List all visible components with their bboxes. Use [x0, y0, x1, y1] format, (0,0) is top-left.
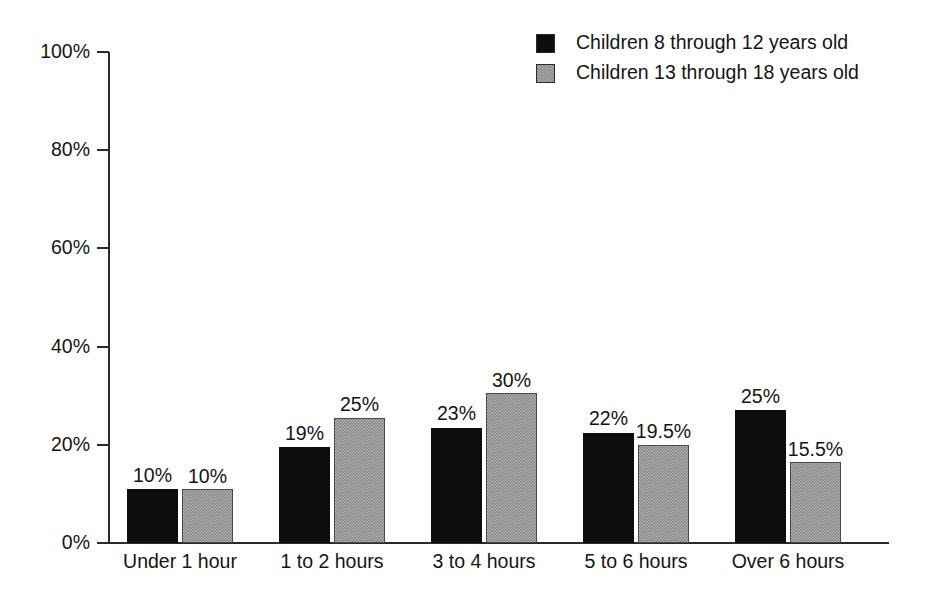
bar-value-label: 22% [589, 409, 628, 429]
x-axis-category-label: 5 to 6 hours [571, 552, 701, 572]
bar-value-label: 19% [285, 424, 324, 444]
bar-group: 25%15.5% [735, 52, 841, 543]
bar-series-a: 10% [127, 489, 178, 543]
bar-series-a: 23% [431, 428, 482, 543]
bar-value-label: 15.5% [788, 440, 843, 460]
x-axis-category-label: 3 to 4 hours [419, 552, 549, 572]
y-axis-tick-label: 80% [0, 140, 90, 160]
x-axis-category-label: Over 6 hours [723, 552, 853, 572]
bar-series-b: 10% [182, 489, 233, 543]
bar-value-label: 25% [340, 395, 379, 415]
bar-series-a: 25% [735, 410, 786, 543]
bar-group: 10%10% [127, 52, 233, 543]
bar-value-label: 10% [188, 467, 227, 487]
bar-group: 19%25% [279, 52, 385, 543]
bar-value-label: 23% [437, 404, 476, 424]
x-axis-category-label: 1 to 2 hours [267, 552, 397, 572]
bar-value-label: 19.5% [636, 422, 691, 442]
x-axis-category-label: Under 1 hour [115, 552, 245, 572]
plot-area: 10%10%19%25%23%30%22%19.5%25%15.5% [108, 52, 889, 543]
bar-group: 22%19.5% [583, 52, 689, 543]
y-axis-tick-label: 20% [0, 435, 90, 455]
bar-series-a: 22% [583, 433, 634, 543]
y-axis-tick-label: 0% [0, 533, 90, 553]
bar-series-a: 19% [279, 447, 330, 543]
bar-group: 23%30% [431, 52, 537, 543]
bar-series-b: 19.5% [638, 445, 689, 543]
bar-value-label: 10% [133, 466, 172, 486]
bar-value-label: 25% [741, 387, 780, 407]
y-axis-tick-label: 100% [0, 42, 90, 62]
grouped-bar-chart: Children 8 through 12 years old Children… [0, 0, 934, 595]
bar-series-b: 30% [486, 393, 537, 543]
bar-series-b: 15.5% [790, 462, 841, 543]
bar-series-b: 25% [334, 418, 385, 543]
legend-swatch-icon-series-a [536, 34, 555, 53]
bar-value-label: 30% [492, 371, 531, 391]
y-axis-tick-label: 60% [0, 238, 90, 258]
y-axis-tick-label: 40% [0, 337, 90, 357]
legend-label-series-a: Children 8 through 12 years old [576, 33, 848, 53]
